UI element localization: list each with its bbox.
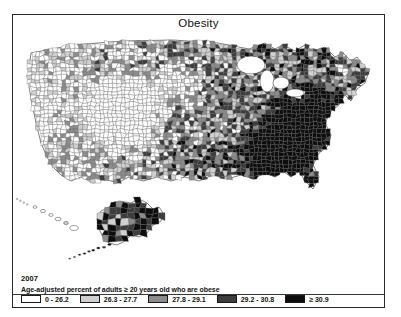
hawaii-island bbox=[70, 226, 78, 231]
legend-swatch bbox=[285, 295, 305, 303]
county bbox=[228, 115, 234, 119]
county bbox=[73, 167, 77, 173]
county bbox=[159, 156, 164, 161]
county bbox=[90, 149, 95, 154]
county bbox=[113, 83, 118, 88]
county bbox=[49, 124, 53, 129]
county bbox=[95, 113, 101, 119]
county bbox=[163, 168, 168, 172]
county bbox=[206, 67, 212, 71]
county bbox=[108, 224, 116, 231]
county bbox=[124, 138, 128, 142]
county bbox=[180, 52, 185, 57]
county bbox=[129, 101, 134, 107]
county bbox=[151, 68, 157, 71]
county bbox=[146, 224, 152, 230]
county bbox=[304, 117, 310, 122]
county bbox=[125, 64, 131, 69]
legend-item: 29.2 - 30.8 bbox=[217, 295, 274, 303]
county bbox=[165, 145, 169, 149]
county bbox=[250, 114, 254, 119]
county bbox=[112, 79, 117, 83]
county bbox=[210, 44, 216, 48]
county bbox=[245, 114, 251, 119]
figure-panel: Obesity 2007 Age-adjusted percent of adu… bbox=[12, 14, 385, 308]
county bbox=[125, 114, 130, 119]
county bbox=[335, 103, 339, 105]
county bbox=[156, 118, 160, 123]
county bbox=[66, 68, 70, 72]
county bbox=[314, 171, 319, 177]
legend-item: 0 - 26.2 bbox=[21, 295, 69, 303]
county bbox=[215, 122, 221, 127]
county bbox=[305, 160, 309, 163]
county bbox=[343, 59, 347, 65]
county bbox=[86, 48, 92, 53]
county bbox=[338, 64, 344, 68]
county bbox=[280, 98, 284, 102]
county bbox=[325, 113, 331, 119]
great-lake bbox=[237, 56, 265, 74]
county bbox=[240, 52, 245, 56]
county bbox=[143, 163, 147, 167]
county bbox=[104, 175, 109, 180]
county bbox=[158, 55, 165, 61]
county bbox=[112, 88, 117, 92]
hawaii-islet bbox=[26, 204, 28, 206]
aleutian-island bbox=[69, 258, 71, 259]
county bbox=[240, 122, 244, 126]
county bbox=[140, 218, 147, 225]
county bbox=[151, 218, 159, 225]
county bbox=[142, 71, 145, 76]
county bbox=[215, 75, 220, 79]
county bbox=[261, 109, 266, 114]
county bbox=[146, 171, 152, 176]
county bbox=[330, 67, 336, 71]
county bbox=[300, 117, 305, 122]
county bbox=[142, 121, 148, 127]
county bbox=[169, 95, 173, 99]
county bbox=[164, 140, 169, 146]
county bbox=[185, 103, 189, 107]
county bbox=[312, 133, 317, 138]
county bbox=[314, 99, 317, 103]
county bbox=[48, 144, 54, 149]
county bbox=[102, 235, 109, 242]
county bbox=[52, 79, 58, 84]
county bbox=[271, 49, 276, 53]
county bbox=[276, 51, 279, 57]
county bbox=[60, 134, 66, 138]
county bbox=[39, 96, 44, 100]
legend-swatch bbox=[80, 295, 100, 303]
county bbox=[172, 95, 175, 99]
county bbox=[214, 79, 219, 83]
hawaii-islet bbox=[23, 202, 25, 204]
county bbox=[146, 176, 151, 180]
county bbox=[360, 63, 366, 69]
county bbox=[293, 144, 298, 148]
county bbox=[197, 101, 204, 106]
legend-label: ≥ 30.9 bbox=[309, 296, 328, 303]
county bbox=[104, 130, 109, 132]
county bbox=[128, 41, 135, 45]
county bbox=[219, 176, 225, 179]
county bbox=[219, 76, 224, 80]
hawaii-island bbox=[40, 209, 45, 212]
county bbox=[304, 113, 311, 118]
alaska-inset bbox=[69, 197, 165, 259]
great-lake bbox=[260, 70, 274, 92]
county bbox=[35, 75, 40, 80]
county bbox=[154, 102, 161, 105]
aleutian-island bbox=[97, 247, 100, 249]
choropleth-map bbox=[13, 31, 384, 263]
great-lake bbox=[286, 89, 304, 97]
legend-label: 0 - 26.2 bbox=[45, 296, 69, 303]
legend-item: 26.3 - 27.7 bbox=[80, 295, 137, 303]
county bbox=[326, 129, 331, 133]
county bbox=[103, 86, 108, 91]
county bbox=[56, 167, 62, 172]
county bbox=[304, 92, 310, 95]
county bbox=[177, 52, 180, 57]
county bbox=[239, 155, 244, 161]
county bbox=[266, 44, 271, 49]
